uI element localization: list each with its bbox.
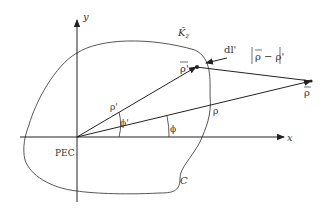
- diagram-canvas: x y K̃z dl' ρ' ρ − ρ' ρ ρ' ρ ϕ' ϕ PEC C: [0, 0, 331, 209]
- contour-label: C: [180, 175, 188, 186]
- observation-point-dot: [309, 79, 312, 82]
- obs-radius-label: ρ: [213, 106, 218, 116]
- x-axis-label: x: [287, 132, 293, 143]
- observation-point-label: ρ: [304, 87, 310, 98]
- obs-angle-label: ϕ: [170, 124, 176, 134]
- distance-vector: [196, 67, 311, 81]
- surface-current-label: K̃z: [177, 27, 189, 40]
- source-point-dot: [195, 65, 199, 69]
- source-radius-label: ρ': [110, 102, 118, 112]
- source-vector: [77, 67, 196, 137]
- angle-arc-phi: [167, 116, 169, 137]
- source-angle-label: ϕ': [120, 118, 129, 128]
- dl-label: dl': [224, 44, 236, 55]
- y-axis-label: y: [82, 11, 89, 22]
- pec-label: PEC: [55, 148, 75, 158]
- dl-arrow: [206, 58, 227, 63]
- source-point-label: ρ': [180, 63, 189, 74]
